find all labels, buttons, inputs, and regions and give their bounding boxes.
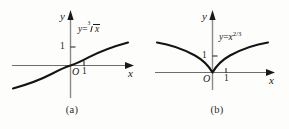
figure-container: y x 1 O 1 y=3x (a) xyxy=(0,0,289,129)
x-axis-label-a: x xyxy=(128,68,133,79)
y-tick-label-b: 1 xyxy=(202,51,207,61)
y-axis-a xyxy=(67,10,73,98)
y-tick-label-a: 1 xyxy=(60,42,65,52)
cube-root-radical-icon: 3x xyxy=(88,24,101,35)
caption-b: (b) xyxy=(145,104,289,115)
caption-a: (a) xyxy=(0,104,144,115)
x-tick-label-b: 1 xyxy=(224,74,229,84)
origin-label-a: O xyxy=(72,67,79,77)
equation-label-a: y=3x xyxy=(78,24,100,35)
y-axis-label-b: y xyxy=(202,11,207,22)
y-axis-label-a: y xyxy=(60,11,65,22)
equation-label-b: y=x2/3 xyxy=(219,31,241,43)
y-axis-b xyxy=(209,10,215,90)
chart-panel-b: y x 1 O 1 y=x2/3 (b) xyxy=(145,0,289,129)
chart-panel-a: y x 1 O 1 y=3x (a) xyxy=(0,0,144,129)
x-tick-label-a: 1 xyxy=(82,67,87,77)
x-axis-label-b: x xyxy=(269,75,274,86)
equation-b-exponent: 2/3 xyxy=(233,30,242,37)
radical-index-a: 3 xyxy=(88,21,91,27)
origin-label-b: O xyxy=(203,74,210,84)
